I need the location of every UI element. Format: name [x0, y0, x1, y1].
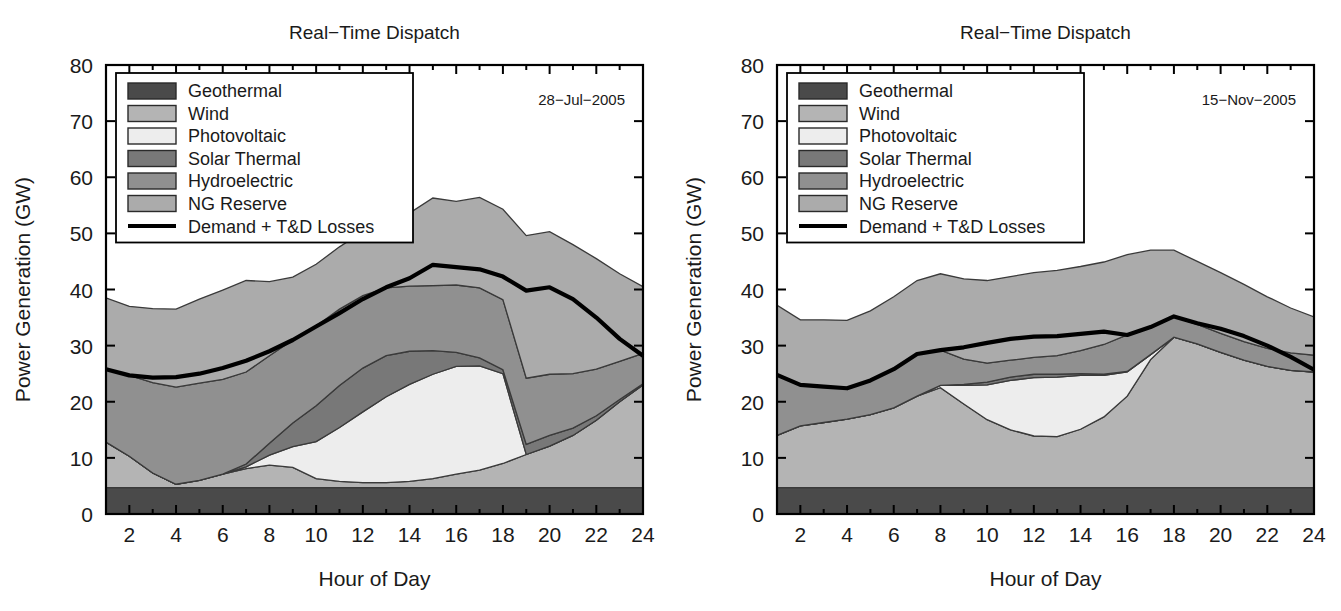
y-tick-label: 10: [741, 447, 764, 470]
legend-label-solar-thermal: Solar Thermal: [188, 149, 301, 169]
legend-label-demand: Demand + T&D Losses: [188, 217, 374, 237]
x-tick-label: 10: [975, 523, 998, 546]
y-tick-label: 20: [70, 391, 93, 414]
x-tick-label: 12: [351, 523, 374, 546]
x-tick-label: 12: [1022, 523, 1045, 546]
legend-swatch-hydroelectric: [128, 173, 176, 189]
legend-label-hydroelectric: Hydroelectric: [859, 171, 964, 191]
legend-swatch-solar-thermal: [128, 151, 176, 167]
y-tick-label: 80: [70, 54, 93, 77]
legend-swatch-photovoltaic: [799, 128, 847, 144]
legend-label-hydroelectric: Hydroelectric: [188, 171, 293, 191]
x-tick-label: 2: [124, 523, 136, 546]
y-tick-label: 50: [741, 222, 764, 245]
x-tick-label: 8: [264, 523, 276, 546]
x-tick-label: 20: [538, 523, 561, 546]
y-tick-label: 20: [741, 391, 764, 414]
legend-swatch-wind: [799, 106, 847, 122]
chart-svg-right: Real−Time Dispatch0102030405060708024681…: [671, 0, 1341, 611]
y-tick-label: 30: [741, 335, 764, 358]
legend-swatch-geothermal: [128, 83, 176, 99]
y-tick-label: 30: [70, 335, 93, 358]
chart-panel-left: Real−Time Dispatch0102030405060708024681…: [0, 0, 670, 611]
y-axis-title: Power Generation (GW): [682, 177, 705, 402]
legend-swatch-geothermal: [799, 83, 847, 99]
legend-label-solar-thermal: Solar Thermal: [859, 149, 972, 169]
x-tick-label: 18: [491, 523, 514, 546]
x-tick-label: 4: [170, 523, 182, 546]
area-geothermal: [777, 488, 1314, 514]
legend-swatch-wind: [128, 106, 176, 122]
legend-swatch-ng-reserve: [799, 196, 847, 212]
y-tick-label: 0: [752, 503, 764, 526]
x-tick-label: 24: [1302, 523, 1326, 546]
x-tick-label: 2: [795, 523, 807, 546]
y-tick-label: 50: [70, 222, 93, 245]
x-tick-label: 16: [445, 523, 468, 546]
y-tick-label: 40: [70, 279, 93, 302]
x-tick-label: 18: [1162, 523, 1185, 546]
y-tick-label: 70: [741, 110, 764, 133]
area-geothermal: [106, 488, 643, 514]
legend-swatch-solar-thermal: [799, 151, 847, 167]
x-tick-label: 22: [1256, 523, 1279, 546]
x-tick-label: 6: [217, 523, 229, 546]
x-tick-label: 22: [585, 523, 608, 546]
x-tick-label: 24: [631, 523, 655, 546]
legend-label-wind: Wind: [859, 104, 900, 124]
chart-panel-right: Real−Time Dispatch0102030405060708024681…: [671, 0, 1341, 611]
y-tick-label: 70: [70, 110, 93, 133]
y-tick-label: 0: [81, 503, 93, 526]
x-tick-label: 14: [398, 523, 422, 546]
x-tick-label: 6: [888, 523, 900, 546]
legend-label-geothermal: Geothermal: [859, 81, 953, 101]
x-tick-label: 20: [1209, 523, 1232, 546]
x-tick-label: 8: [935, 523, 947, 546]
legend-label-photovoltaic: Photovoltaic: [859, 126, 957, 146]
chart-title: Real−Time Dispatch: [289, 22, 460, 43]
x-tick-label: 14: [1069, 523, 1093, 546]
y-tick-label: 80: [741, 54, 764, 77]
y-tick-label: 60: [741, 166, 764, 189]
x-tick-label: 10: [304, 523, 327, 546]
date-annotation: 28−Jul−2005: [538, 91, 625, 108]
date-annotation: 15−Nov−2005: [1202, 91, 1296, 108]
chart-title: Real−Time Dispatch: [960, 22, 1131, 43]
x-tick-label: 16: [1116, 523, 1139, 546]
legend-label-demand: Demand + T&D Losses: [859, 217, 1045, 237]
y-axis-title: Power Generation (GW): [11, 177, 34, 402]
plot-group: Real−Time Dispatch0102030405060708024681…: [11, 22, 655, 590]
legend-label-photovoltaic: Photovoltaic: [188, 126, 286, 146]
legend-swatch-photovoltaic: [128, 128, 176, 144]
legend-swatch-ng-reserve: [128, 196, 176, 212]
y-tick-label: 10: [70, 447, 93, 470]
legend-label-wind: Wind: [188, 104, 229, 124]
y-tick-label: 60: [70, 166, 93, 189]
plot-group: Real−Time Dispatch0102030405060708024681…: [682, 22, 1326, 590]
legend-label-ng-reserve: NG Reserve: [859, 194, 958, 214]
legend-label-ng-reserve: NG Reserve: [188, 194, 287, 214]
figure-root: Real−Time Dispatch0102030405060708024681…: [0, 0, 1341, 611]
x-tick-label: 4: [841, 523, 853, 546]
y-tick-label: 40: [741, 279, 764, 302]
x-axis-title: Hour of Day: [989, 567, 1102, 590]
legend-swatch-hydroelectric: [799, 173, 847, 189]
chart-legend: GeothermalWindPhotovoltaicSolar ThermalH…: [787, 73, 1084, 243]
chart-svg-left: Real−Time Dispatch0102030405060708024681…: [0, 0, 670, 611]
chart-legend: GeothermalWindPhotovoltaicSolar ThermalH…: [116, 73, 413, 243]
x-axis-title: Hour of Day: [318, 567, 431, 590]
legend-label-geothermal: Geothermal: [188, 81, 282, 101]
